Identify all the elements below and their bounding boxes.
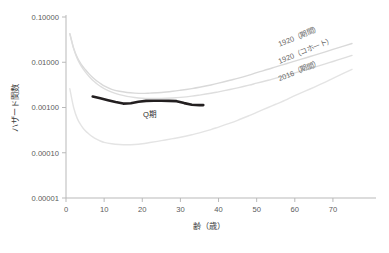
series-line-2016（期間） (70, 69, 352, 145)
y-tick-label: 0.00001 (32, 194, 59, 203)
chart-figure: 0.100000.010000.001000.000100.0000101020… (0, 0, 389, 253)
y-tick-label: 0.00100 (32, 103, 59, 112)
x-tick-label: 10 (100, 205, 108, 214)
x-tick-label: 50 (252, 205, 260, 214)
x-tick-label: 0 (64, 205, 68, 214)
x-tick-label: 70 (329, 205, 337, 214)
y-tick-label: 0.10000 (32, 13, 59, 22)
x-axis-title: 齢（歳） (193, 221, 225, 231)
x-tick-label: 30 (176, 205, 184, 214)
y-tick-label: 0.01000 (32, 58, 59, 67)
tick-marks (62, 17, 333, 202)
y-axis-title: ハザード関数 (10, 84, 20, 132)
hazard-function-log-line-chart: 0.100000.010000.001000.000100.0000101020… (0, 0, 389, 253)
x-tick-label: 60 (291, 205, 299, 214)
y-tick-label: 0.00010 (32, 149, 59, 158)
chart-annotations: Q期 (143, 110, 157, 119)
series-labels: 1920（期間）1920（コホート）2016（期間） (277, 24, 335, 84)
x-tick-label: 40 (214, 205, 222, 214)
x-tick-label: 20 (138, 205, 146, 214)
annotation-q-period: Q期 (143, 110, 157, 119)
